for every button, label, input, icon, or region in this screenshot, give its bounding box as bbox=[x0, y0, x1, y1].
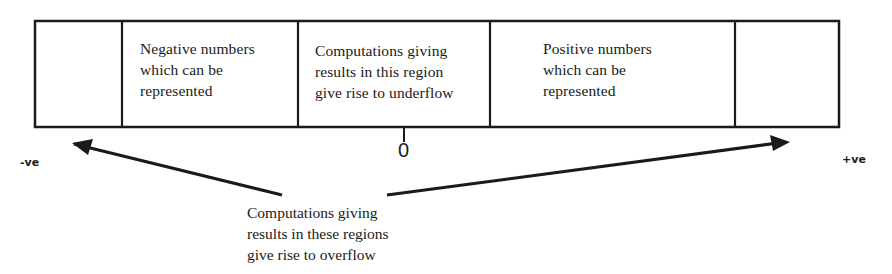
positive-representable-text: Positive numbers which can be represente… bbox=[543, 38, 652, 101]
zero-label: 0 bbox=[398, 139, 409, 162]
overflow-arrow-left bbox=[74, 144, 282, 195]
arrowhead-left-icon bbox=[72, 139, 93, 155]
number-range-diagram: Negative numbers which can be represente… bbox=[0, 0, 892, 274]
negative-representable-text: Negative numbers which can be represente… bbox=[140, 38, 255, 101]
underflow-text: Computations giving results in this regi… bbox=[315, 40, 454, 103]
arrowhead-right-icon bbox=[770, 135, 790, 151]
negative-direction-label: -ve bbox=[20, 156, 39, 169]
overflow-arrow-right bbox=[387, 143, 778, 195]
overflow-caption: Computations giving results in these reg… bbox=[247, 202, 389, 265]
positive-direction-label: +ve bbox=[842, 153, 866, 166]
